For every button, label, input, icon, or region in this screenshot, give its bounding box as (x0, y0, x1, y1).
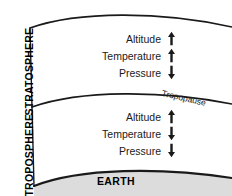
arrow-down-icon (164, 65, 178, 80)
variable-label: Temperature (102, 50, 161, 62)
arrow-up-icon (164, 31, 178, 46)
variable-row: Altitude (60, 108, 178, 125)
variable-row: Pressure (60, 64, 178, 81)
variable-label: Pressure (119, 145, 161, 157)
earth-surface-label: EARTH (0, 175, 232, 187)
troposphere-variable-list: Altitude Temperature Pressure (60, 108, 178, 159)
arrow-down-icon (164, 143, 178, 158)
variable-label: Altitude (126, 33, 161, 45)
variable-row: Altitude (60, 30, 178, 47)
atmosphere-diagram: STRATOSPHERE TROPOSPHERE Altitude Temper… (0, 0, 232, 196)
variable-row: Temperature (60, 125, 178, 142)
variable-label: Pressure (119, 67, 161, 79)
variable-label: Temperature (102, 128, 161, 140)
variable-row: Temperature (60, 47, 178, 64)
variable-label: Altitude (126, 111, 161, 123)
arrow-up-icon (164, 48, 178, 63)
stratosphere-variable-list: Altitude Temperature Pressure (60, 30, 178, 81)
stratosphere-top-arc (30, 15, 232, 28)
variable-row: Pressure (60, 142, 178, 159)
arrow-up-icon (164, 109, 178, 124)
stratosphere-layer-label: STRATOSPHERE (24, 28, 35, 116)
arrow-down-icon (164, 126, 178, 141)
